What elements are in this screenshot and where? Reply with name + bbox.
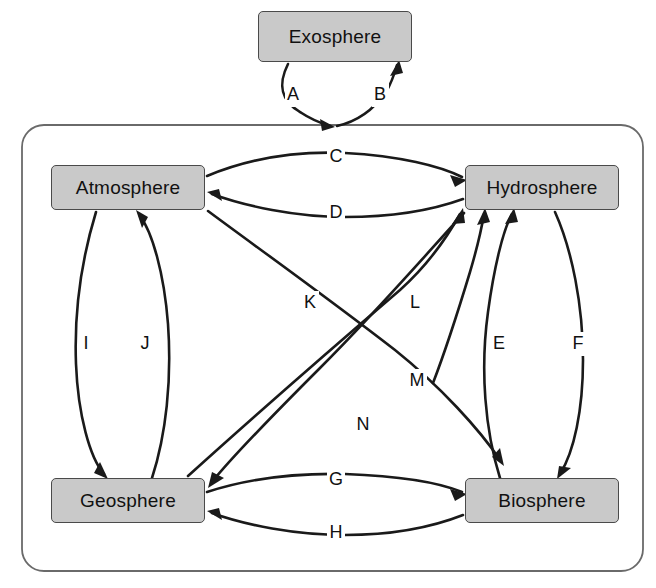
edge-letter-J: J bbox=[141, 333, 150, 353]
edge-K-arrowhead bbox=[452, 208, 465, 224]
node-exosphere[interactable]: Exosphere bbox=[258, 11, 412, 62]
node-atmosphere[interactable]: Atmosphere bbox=[51, 165, 205, 210]
earth-systems-diagram: A B C D E F G H I J K L M bbox=[0, 0, 656, 588]
edge-letters: A B C D E F G H I J K L M bbox=[80, 83, 587, 545]
edge-H-arrowhead bbox=[207, 508, 222, 520]
node-geosphere-label: Geosphere bbox=[80, 490, 176, 512]
edge-N bbox=[208, 213, 464, 488]
edge-N-arrowhead bbox=[208, 472, 224, 488]
edge-K-line bbox=[188, 214, 460, 476]
edge-B-arrowhead bbox=[390, 60, 403, 76]
edge-letter-K: K bbox=[304, 292, 316, 312]
node-hydrosphere-label: Hydrosphere bbox=[487, 177, 598, 199]
edge-letter-N: N bbox=[357, 414, 370, 434]
node-biosphere[interactable]: Biosphere bbox=[465, 478, 619, 523]
edge-letter-I: I bbox=[83, 333, 88, 353]
edge-N-line bbox=[212, 213, 464, 482]
edge-letter-F: F bbox=[573, 333, 584, 353]
edge-D-arrowhead bbox=[207, 189, 222, 201]
node-biosphere-label: Biosphere bbox=[498, 490, 585, 512]
edge-letter-D: D bbox=[330, 202, 343, 222]
edge-letter-E: E bbox=[493, 333, 505, 353]
edge-L bbox=[433, 208, 490, 383]
node-atmosphere-label: Atmosphere bbox=[76, 177, 180, 199]
edge-L-arrowhead bbox=[477, 208, 490, 225]
node-geosphere[interactable]: Geosphere bbox=[51, 478, 205, 523]
edge-letter-A: A bbox=[287, 84, 299, 104]
node-hydrosphere[interactable]: Hydrosphere bbox=[465, 165, 619, 210]
node-exosphere-label: Exosphere bbox=[289, 26, 382, 48]
edge-letter-B: B bbox=[374, 84, 386, 104]
edge-letter-M: M bbox=[410, 370, 425, 390]
edge-letter-H: H bbox=[330, 522, 343, 542]
edge-letter-L: L bbox=[410, 292, 420, 312]
edge-K bbox=[188, 208, 465, 476]
edge-E-arrowhead bbox=[505, 208, 518, 224]
edge-B bbox=[337, 60, 403, 126]
edge-letter-G: G bbox=[329, 469, 343, 489]
edge-letter-C: C bbox=[330, 146, 343, 166]
